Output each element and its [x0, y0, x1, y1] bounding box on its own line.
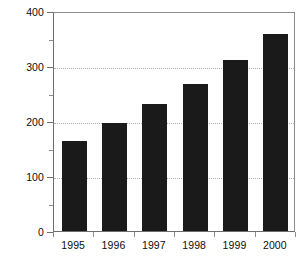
bar	[62, 141, 87, 231]
x-tick-label: 1998	[174, 239, 214, 251]
y-tick-label: 300	[0, 61, 44, 73]
x-tick-mark	[53, 232, 54, 237]
x-tick-label: 2000	[255, 239, 295, 251]
x-tick-label: 1997	[134, 239, 174, 251]
x-tick-label: 1995	[53, 239, 93, 251]
x-tick-mark	[255, 232, 256, 237]
x-tick-mark	[214, 232, 215, 237]
bar	[223, 60, 248, 231]
bar	[142, 104, 167, 231]
plot-area	[53, 12, 295, 232]
bar-chart: Units (thousands) 0100200300400 19951996…	[0, 0, 302, 260]
y-tick-label: 0	[0, 226, 44, 238]
y-tick-label: 100	[0, 171, 44, 183]
bar	[102, 123, 127, 231]
x-tick-label: 1999	[215, 239, 255, 251]
x-tick-mark	[295, 232, 296, 237]
bar	[183, 84, 208, 231]
y-tick-label: 400	[0, 6, 44, 18]
x-tick-label: 1996	[94, 239, 134, 251]
y-tick-label: 200	[0, 116, 44, 128]
x-tick-mark	[174, 232, 175, 237]
bar-series	[54, 13, 294, 231]
x-tick-mark	[93, 232, 94, 237]
x-tick-mark	[134, 232, 135, 237]
bar	[263, 34, 288, 231]
